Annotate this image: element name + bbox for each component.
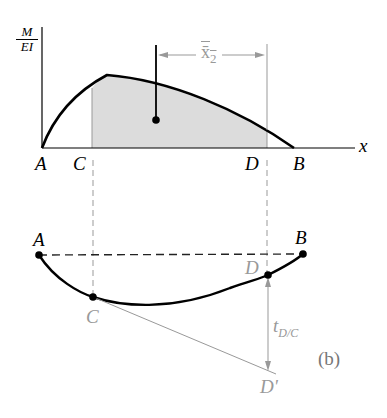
y-axis-label: M EI: [16, 25, 38, 54]
x-axis-label: x: [359, 135, 367, 157]
x2-label-subscript: 2: [210, 51, 217, 66]
tdc-label-subscript: D/C: [278, 326, 298, 340]
label-d-bottom: D: [245, 257, 259, 279]
label-a-top: A: [35, 153, 47, 175]
point-d-dot: [264, 271, 272, 279]
tangent-at-c: [93, 297, 276, 374]
label-d-top: D: [245, 153, 259, 175]
x2-label: x̄2: [201, 42, 217, 67]
tdc-label: tD/C: [273, 315, 298, 341]
panel-label: (b): [318, 348, 340, 370]
x2-arrow-left-icon: [158, 52, 168, 58]
label-d-prime: D': [260, 376, 278, 398]
y-axis-label-numerator: M: [16, 25, 38, 40]
label-b-top: B: [293, 153, 305, 175]
x2-arrow-right-icon: [255, 52, 265, 58]
ab-chord-dashed: [39, 254, 303, 255]
label-a-bottom: A: [33, 229, 45, 251]
elastic-curve: [39, 254, 303, 305]
y-axis-label-denominator: EI: [16, 40, 38, 54]
label-c-bottom: C: [86, 306, 99, 328]
label-c-top: C: [73, 153, 86, 175]
point-c-dot: [89, 293, 97, 301]
label-b-bottom: B: [295, 227, 307, 249]
point-b-dot: [299, 250, 307, 258]
x2-label-main: x̄: [201, 42, 210, 62]
point-a-dot: [35, 251, 43, 259]
shaded-area-cd: [92, 75, 267, 148]
centroid-dot: [152, 116, 160, 124]
